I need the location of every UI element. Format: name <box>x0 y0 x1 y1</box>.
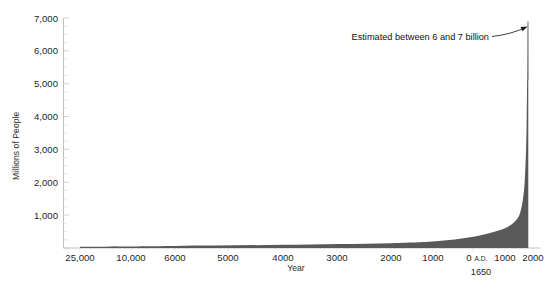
y-axis-title: Millions of People <box>11 111 21 180</box>
x-tick-label-2000-bc: 2000 <box>380 252 401 263</box>
x-tick-label-25000: 25,000 <box>65 252 94 263</box>
population-area-curve <box>80 22 528 249</box>
y-tick-label-5000: 5,000 <box>34 78 58 89</box>
y-tick-label-4000: 4,000 <box>34 111 58 122</box>
annotation-estimate-label: Estimated between 6 and 7 billion <box>352 32 489 42</box>
annotation-leader <box>492 27 528 37</box>
x-tick-label-4000: 4000 <box>272 252 293 263</box>
x-tick-label-1000-bc: 1000 <box>422 252 443 263</box>
arrow-head-icon <box>521 27 528 32</box>
x-tick-label-1000-ad: 1000 <box>494 252 515 263</box>
y-axis-minor-ticks <box>64 26 68 240</box>
chart-svg: 7,000 6,000 5,000 4,000 3,000 2,000 1,00… <box>0 0 553 295</box>
x-tick-label-2000-ad: 2000 <box>522 252 543 263</box>
x-tick-label-5000: 5000 <box>217 252 238 263</box>
y-tick-label-2000: 2,000 <box>34 177 58 188</box>
population-chart-figure: 7,000 6,000 5,000 4,000 3,000 2,000 1,00… <box>0 0 553 295</box>
x-axis-title: Year <box>287 263 305 273</box>
x-tick-label-6000: 6000 <box>164 252 185 263</box>
x-tick-label-0: 0 <box>466 252 471 263</box>
x-tick-label-10000: 10,000 <box>116 252 145 263</box>
y-tick-label-1000: 1,000 <box>34 210 58 221</box>
y-tick-label-7000: 7,000 <box>34 13 58 24</box>
x-axis-ticks <box>80 248 533 252</box>
y-tick-label-3000: 3,000 <box>34 144 58 155</box>
x-tick-label-0-era: A.D. <box>475 255 488 262</box>
x-sub-tick-label-1650: 1650 <box>471 267 491 277</box>
y-tick-label-6000: 6,000 <box>34 45 58 56</box>
x-tick-label-3000: 3000 <box>326 252 347 263</box>
